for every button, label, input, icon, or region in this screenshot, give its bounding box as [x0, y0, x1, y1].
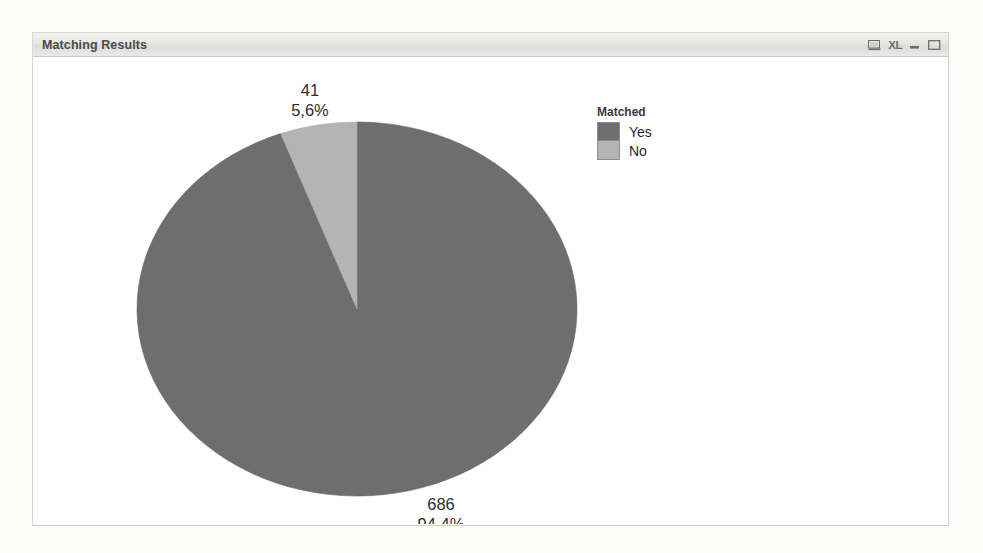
chart-canvas: 41 5,6% 686 94,4% Matched Yes No: [33, 57, 948, 524]
window-controls: XL: [868, 33, 941, 57]
chart-legend: Matched Yes No: [597, 105, 652, 160]
legend-swatch-no: [597, 141, 620, 160]
chart-window: Matching Results XL: [32, 32, 949, 526]
data-label-no-value: 41: [255, 80, 365, 100]
legend-item-yes[interactable]: Yes: [597, 122, 652, 141]
page-title: Matching Results: [42, 38, 147, 52]
data-label-no-percent: 5,6%: [255, 100, 365, 120]
data-label-yes: 686 94,4%: [381, 494, 501, 524]
window-title-bar: Matching Results XL: [33, 33, 948, 57]
legend-title: Matched: [597, 105, 652, 119]
print-preview-icon[interactable]: [868, 39, 881, 51]
legend-label-yes: Yes: [629, 124, 652, 140]
legend-item-no[interactable]: No: [597, 141, 652, 160]
pie-chart: [33, 57, 948, 524]
data-label-yes-percent: 94,4%: [381, 514, 501, 524]
data-label-no: 41 5,6%: [255, 80, 365, 120]
minimize-button[interactable]: [909, 39, 921, 51]
maximize-button[interactable]: [928, 39, 941, 51]
legend-swatch-yes: [597, 122, 620, 141]
excel-export-icon[interactable]: XL: [888, 39, 902, 51]
legend-label-no: No: [629, 143, 647, 159]
data-label-yes-value: 686: [381, 494, 501, 514]
screenshot-root: and the ... ... ....... Please the event…: [0, 0, 983, 553]
